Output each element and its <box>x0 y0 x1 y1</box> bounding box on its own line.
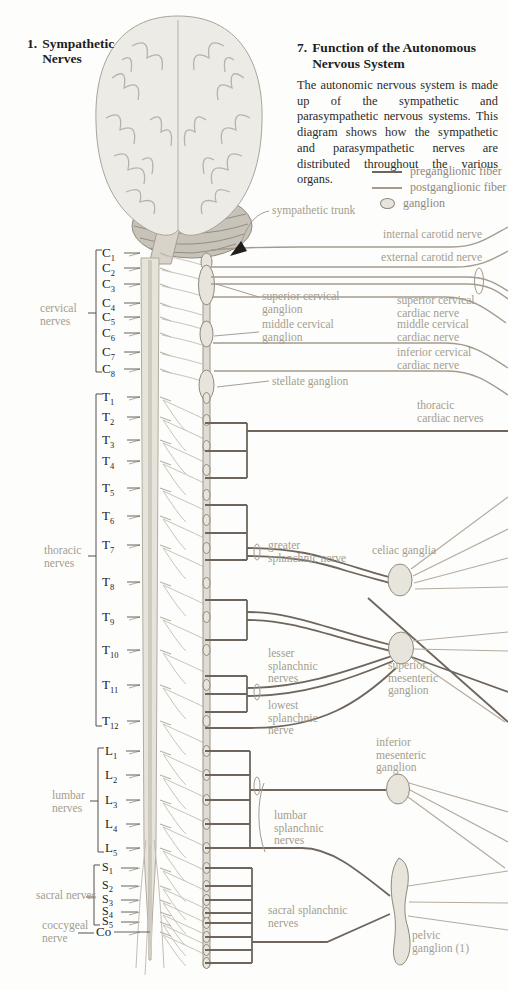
spinal-nerve-roots <box>129 253 204 966</box>
label-sympathetic-trunk: sympathetic trunk <box>272 205 355 218</box>
preganglionic-line-swatch <box>372 171 402 173</box>
label-external-carotid-nerve: external carotid nerve <box>381 252 482 265</box>
label-celiac-ganglia: celiac ganglia <box>372 545 436 558</box>
label-inferior-mesenteric-ganglion: inferiormesentericganglion <box>376 737 426 775</box>
lesser-splanchnic-line <box>247 612 391 645</box>
superior-cervical-ganglion-shape <box>199 265 215 305</box>
legend-label: postganglionic fiber <box>410 180 506 195</box>
figure-number: 1. <box>27 36 37 66</box>
legend-label: ganglion <box>403 196 445 211</box>
segment-label-L4: L4 <box>105 817 117 836</box>
legend: preganglionic fiberpostganglionic fiberg… <box>372 164 506 212</box>
group-label-lumbar-nerves: lumbarnerves <box>52 790 85 815</box>
label-superior-mesenteric-ganglion: superiormesentericganglion <box>388 660 438 698</box>
inferior-cervical-cardiac-nerve-line <box>214 371 508 395</box>
book-page: 1. Sympathetic Nerves 7. Function of the… <box>0 0 508 990</box>
group-label-coccygeal-nerves: coccygealnerve <box>42 920 88 945</box>
label-middle-cervical-ganglion: middle cervicalganglion <box>262 319 334 344</box>
spinal-cord <box>136 258 164 975</box>
label-thoracic-cardiac-nerves: thoraciccardiac nerves <box>417 400 484 425</box>
label-pelvic-ganglion: pelvicganglion (1) <box>412 930 469 955</box>
segment-label-C8: C8 <box>102 362 115 381</box>
ganglion-swatch <box>380 198 395 209</box>
group-label-cervical-nerves: cervicalnerves <box>40 303 77 328</box>
legend-label: preganglionic fiber <box>410 164 502 179</box>
pelvic-ganglion-shape <box>391 858 410 965</box>
group-label-sacral-nerves: sacral nerves <box>36 890 96 903</box>
segment-label-T6: T6 <box>102 509 114 528</box>
inferior-mesenteric-ganglion-shape <box>387 774 410 804</box>
segment-label-T8: T8 <box>102 575 114 594</box>
middle-cervical-ganglion-shape <box>200 321 213 347</box>
legend-item-preganglionic: preganglionic fiber <box>372 164 506 179</box>
segment-label-L2: L2 <box>105 768 117 787</box>
label-superior-cervical-cardiac-nerve: superior cervicalcardiac nerve <box>397 295 475 320</box>
rami-communicantes-ladder <box>205 423 252 963</box>
segment-label-T12: T12 <box>102 714 118 733</box>
segment-label-T5: T5 <box>102 481 114 500</box>
segment-label-S1: S1 <box>102 861 113 878</box>
label-lumbar-splanchnic-nerves: lumbarsplanchnicnerves <box>274 810 324 848</box>
segment-label-Co: Co <box>96 925 111 938</box>
segment-label-T1: T1 <box>102 390 114 409</box>
segment-label-T7: T7 <box>102 538 114 557</box>
segment-label-T4: T4 <box>102 454 114 473</box>
segment-label-L5: L5 <box>105 841 117 860</box>
label-sacral-splanchnic-nerves: sacral splanchnicnerves <box>268 905 348 930</box>
segment-label-L1: L1 <box>105 744 117 763</box>
segment-label-T10: T10 <box>102 643 118 662</box>
label-stellate-ganglion: stellate ganglion <box>272 376 348 389</box>
postganglionic-line-swatch <box>372 187 402 189</box>
segment-label-T9: T9 <box>102 610 114 629</box>
postganglionic-fans <box>408 497 508 930</box>
section-number: 7. <box>297 40 307 71</box>
segment-label-T3: T3 <box>102 433 114 452</box>
label-lowest-splanchnic-nerve: lowestsplanchnicnerve <box>268 700 318 738</box>
section-title-text: Function of the Autonomous Nervous Syste… <box>312 40 504 71</box>
legend-item-postganglionic: postganglionic fiber <box>372 180 506 195</box>
label-inferior-cervical-cardiac-nerve: inferior cervicalcardiac nerve <box>397 347 471 372</box>
segment-label-C6: C6 <box>102 326 115 345</box>
label-middle-cervical-cardiac-nerve: middle cervicalcardiac nerve <box>397 319 469 344</box>
section-heading: 7. Function of the Autonomous Nervous Sy… <box>297 40 504 71</box>
segment-label-C3: C3 <box>102 277 115 296</box>
sympathetic-trunk-chain <box>199 253 215 969</box>
label-internal-carotid-nerve: internal carotid nerve <box>383 229 482 242</box>
celiac-ganglia-shape <box>388 564 412 596</box>
figure-title-text: Sympathetic Nerves <box>42 36 140 66</box>
preganglionic-nerve-lines <box>247 431 508 942</box>
segment-label-T11: T11 <box>102 678 118 697</box>
label-greater-splanchnic-nerve: greatersplanchnic nerve <box>268 540 346 565</box>
label-lesser-splanchnic-nerves: lessersplanchnicnerves <box>268 648 318 686</box>
legend-item-ganglion: ganglion <box>372 196 506 211</box>
segment-label-L3: L3 <box>105 793 117 812</box>
label-superior-cervical-ganglion: superior cervicalganglion <box>262 291 340 316</box>
segment-label-T2: T2 <box>102 410 114 429</box>
figure-title: 1. Sympathetic Nerves <box>27 36 140 66</box>
group-label-thoracic-nerves: thoracicnerves <box>44 545 81 570</box>
